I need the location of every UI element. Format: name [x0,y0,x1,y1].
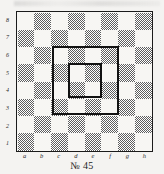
board-square-a7 [18,30,35,47]
board-square-f4 [101,82,118,99]
board-square-g8 [118,13,135,30]
board-square-e2 [85,116,102,133]
figure-caption: № 45 [0,160,164,171]
rank-label: 4 [0,82,15,100]
board-square-a5 [18,64,35,81]
board-square-d2 [68,116,85,133]
board-square-d3 [68,99,85,116]
board-square-d1 [68,133,85,150]
board-square-a1 [18,133,35,150]
board-square-a8 [18,13,35,30]
board-square-b7 [34,30,51,47]
board-square-f5 [101,64,118,81]
board-square-d8 [68,13,85,30]
board-square-a4 [18,82,35,99]
board-square-a6 [18,47,35,64]
board-square-f8 [101,13,118,30]
board-square-h6 [135,47,152,64]
board-square-c5 [51,64,68,81]
board-square-g3 [118,99,135,116]
diagram-page: 8 7 6 5 4 3 2 1 a b c d e f g h № 45 [0,0,164,174]
board-square-e4 [85,82,102,99]
board-square-d6 [68,47,85,64]
rank-label: 5 [0,64,15,82]
rank-label: 3 [0,99,15,117]
board-square-f1 [101,133,118,150]
rank-label: 6 [0,46,15,64]
board-square-g2 [118,116,135,133]
board-square-b3 [34,99,51,116]
board-square-f2 [101,116,118,133]
rank-label: 8 [0,11,15,29]
rank-labels: 8 7 6 5 4 3 2 1 [0,11,15,152]
board-square-c4 [51,82,68,99]
board-square-g6 [118,47,135,64]
board-square-h2 [135,116,152,133]
board-square-h3 [135,99,152,116]
rank-label: 1 [0,134,15,152]
board-square-a2 [18,116,35,133]
board-square-f3 [101,99,118,116]
board-square-h1 [135,133,152,150]
board-square-e6 [85,47,102,64]
board-square-c3 [51,99,68,116]
board-square-h4 [135,82,152,99]
board-square-h5 [135,64,152,81]
board-square-h7 [135,30,152,47]
board-square-b6 [34,47,51,64]
board-square-b1 [34,133,51,150]
board-grid [18,13,152,151]
board-square-c1 [51,133,68,150]
board-square-c6 [51,47,68,64]
board-square-h8 [135,13,152,30]
board-square-f7 [101,30,118,47]
board-square-c8 [51,13,68,30]
board-square-e1 [85,133,102,150]
board-square-g7 [118,30,135,47]
board-square-e8 [85,13,102,30]
board-square-e7 [85,30,102,47]
board-square-c7 [51,30,68,47]
board-square-f6 [101,47,118,64]
board-square-g4 [118,82,135,99]
scan-bleed-artifact [14,1,160,6]
rank-label: 2 [0,117,15,135]
chessboard [16,11,153,152]
board-square-a3 [18,99,35,116]
board-square-d4 [68,82,85,99]
board-square-e3 [85,99,102,116]
rank-label: 7 [0,29,15,47]
board-square-b5 [34,64,51,81]
board-square-b8 [34,13,51,30]
board-square-d7 [68,30,85,47]
board-square-c2 [51,116,68,133]
board-square-e5 [85,64,102,81]
board-square-b2 [34,116,51,133]
board-square-g1 [118,133,135,150]
board-square-b4 [34,82,51,99]
board-square-d5 [68,64,85,81]
board-square-g5 [118,64,135,81]
